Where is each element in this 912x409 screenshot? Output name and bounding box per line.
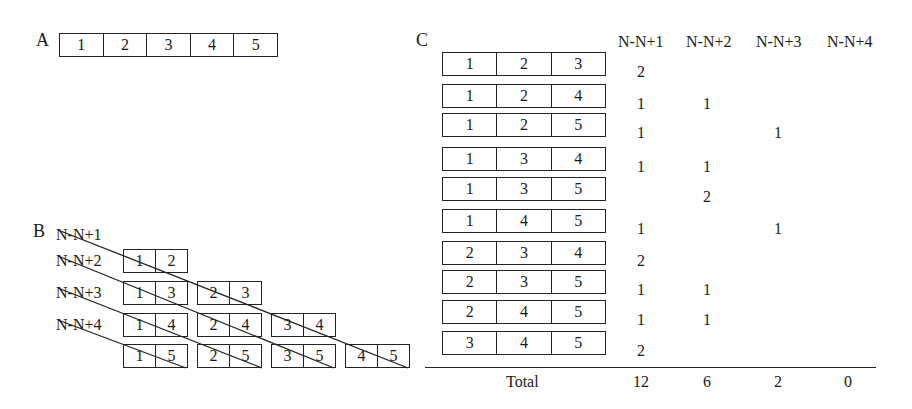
total-value: 2 <box>763 373 793 391</box>
triplet-cell: 2 <box>497 53 551 75</box>
pair-box: 3 5 <box>271 344 336 368</box>
column-header: N-N+2 <box>686 33 731 51</box>
sequence-cell: 5 <box>234 34 277 56</box>
count-value: 1 <box>626 124 656 142</box>
count-value: 1 <box>626 311 656 329</box>
triplet-box: 135 <box>442 177 606 201</box>
triplet-cell: 5 <box>552 114 605 136</box>
pair-cell: 3 <box>272 345 304 367</box>
count-value: 2 <box>626 252 656 270</box>
column-header: N-N+3 <box>756 33 801 51</box>
count-value: 2 <box>626 63 656 81</box>
sequence-cell: 3 <box>147 34 191 56</box>
count-value: 1 <box>763 220 793 238</box>
panel-c-label: C <box>416 30 428 51</box>
pair-cell: 1 <box>124 345 156 367</box>
count-value: 1 <box>626 220 656 238</box>
sequence-cell: 4 <box>191 34 235 56</box>
row-label: N-N+1 <box>56 226 101 244</box>
pair-box: 4 5 <box>345 344 410 368</box>
pair-cell: 4 <box>230 314 261 336</box>
triplet-cell: 5 <box>552 178 605 200</box>
triplet-cell: 4 <box>552 85 605 107</box>
total-label: Total <box>506 373 539 391</box>
pair-box: 2 4 <box>197 313 262 337</box>
triplet-cell: 5 <box>552 271 605 293</box>
triplet-cell: 2 <box>443 301 497 323</box>
triplet-cell: 4 <box>497 332 551 354</box>
pair-cell: 5 <box>304 345 335 367</box>
pair-cell: 5 <box>156 345 187 367</box>
triplet-cell: 1 <box>443 85 497 107</box>
count-value: 2 <box>692 188 722 206</box>
triplet-box: 234 <box>442 241 606 265</box>
triplet-cell: 3 <box>497 178 551 200</box>
pair-box: 1 3 <box>123 281 188 305</box>
pair-cell: 5 <box>378 345 409 367</box>
triplet-cell: 1 <box>443 210 497 232</box>
pair-cell: 4 <box>304 314 335 336</box>
count-value: 1 <box>692 311 722 329</box>
pair-box: 1 4 <box>123 313 188 337</box>
pair-cell: 2 <box>156 250 187 272</box>
count-value: 1 <box>626 281 656 299</box>
panel-a-label: A <box>36 30 49 51</box>
triplet-box: 123 <box>442 52 606 76</box>
row-label: N-N+2 <box>56 252 101 270</box>
total-divider <box>425 367 876 368</box>
triplet-box: 145 <box>442 209 606 233</box>
panel-b-label: B <box>33 221 45 242</box>
pair-box: 3 4 <box>271 313 336 337</box>
pair-cell: 4 <box>346 345 378 367</box>
pair-box: 2 3 <box>197 281 262 305</box>
triplet-cell: 1 <box>443 53 497 75</box>
triplet-cell: 4 <box>497 301 551 323</box>
pair-cell: 3 <box>156 282 187 304</box>
triplet-box: 245 <box>442 300 606 324</box>
pair-cell: 2 <box>198 314 230 336</box>
pair-cell: 1 <box>124 314 156 336</box>
triplet-box: 345 <box>442 331 606 355</box>
triplet-cell: 2 <box>497 114 551 136</box>
total-value: 12 <box>626 373 656 391</box>
count-value: 1 <box>692 158 722 176</box>
pair-cell: 3 <box>272 314 304 336</box>
pair-box: 1 5 <box>123 344 188 368</box>
triplet-cell: 1 <box>443 178 497 200</box>
triplet-cell: 5 <box>552 301 605 323</box>
triplet-cell: 2 <box>443 271 497 293</box>
count-value: 1 <box>763 124 793 142</box>
triplet-cell: 5 <box>552 332 605 354</box>
row-label: N-N+4 <box>56 316 101 334</box>
pair-cell: 4 <box>156 314 187 336</box>
triplet-cell: 2 <box>443 242 497 264</box>
triplet-cell: 4 <box>552 148 605 170</box>
sequence-cell: 1 <box>60 34 104 56</box>
triplet-box: 125 <box>442 113 606 137</box>
pair-cell: 1 <box>124 282 156 304</box>
panel-a-sequence: 1 2 3 4 5 <box>59 33 278 57</box>
triplet-cell: 1 <box>443 148 497 170</box>
pair-cell: 3 <box>230 282 261 304</box>
pair-cell: 2 <box>198 345 230 367</box>
count-value: 1 <box>692 95 722 113</box>
triplet-cell: 2 <box>497 85 551 107</box>
pair-box: 1 2 <box>123 249 188 273</box>
triplet-box: 134 <box>442 147 606 171</box>
triplet-cell: 3 <box>497 242 551 264</box>
total-value: 6 <box>692 373 722 391</box>
sequence-cell: 2 <box>104 34 148 56</box>
triplet-cell: 4 <box>497 210 551 232</box>
total-value: 0 <box>833 373 863 391</box>
count-value: 1 <box>692 281 722 299</box>
pair-cell: 1 <box>124 250 156 272</box>
triplet-cell: 5 <box>552 210 605 232</box>
count-value: 2 <box>626 342 656 360</box>
triplet-cell: 3 <box>497 148 551 170</box>
pair-box: 2 5 <box>197 344 262 368</box>
row-label: N-N+3 <box>56 284 101 302</box>
triplet-cell: 3 <box>552 53 605 75</box>
count-value: 1 <box>626 158 656 176</box>
triplet-box: 124 <box>442 84 606 108</box>
pair-cell: 5 <box>230 345 261 367</box>
